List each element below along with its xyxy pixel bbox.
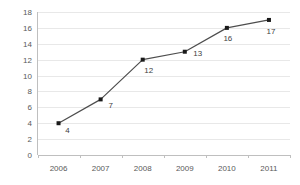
y-axis-tick-label: 6 — [28, 103, 33, 112]
y-axis-tick-label: 0 — [28, 151, 33, 160]
data-point-marker — [99, 97, 103, 101]
x-axis-tick-label: 2011 — [260, 164, 278, 173]
data-point-marker — [57, 121, 61, 125]
data-point-label: 12 — [144, 66, 153, 75]
line-chart: 024681012141618 200620072008200920102011… — [0, 0, 300, 185]
chart-background — [0, 0, 300, 185]
x-axis-tick-label: 2008 — [134, 164, 152, 173]
x-axis-tick-label: 2007 — [92, 164, 110, 173]
data-point-label: 16 — [223, 34, 232, 43]
y-axis-tick-label: 14 — [23, 40, 32, 49]
data-point-label: 4 — [65, 126, 70, 135]
x-axis-tick-label: 2009 — [176, 164, 194, 173]
chart-canvas: 024681012141618 200620072008200920102011… — [0, 0, 300, 185]
y-axis-tick-label: 2 — [28, 135, 33, 144]
x-axis-tick-label: 2010 — [218, 164, 236, 173]
data-point-marker — [183, 50, 187, 54]
y-axis-tick-label: 10 — [23, 72, 32, 81]
y-axis-tick-label: 8 — [28, 87, 33, 96]
data-point-marker — [267, 18, 271, 22]
y-axis-tick-label: 16 — [23, 24, 32, 33]
data-point-label: 17 — [267, 27, 276, 36]
data-point-label: 13 — [193, 49, 202, 58]
y-axis-tick-label: 18 — [23, 8, 32, 17]
data-point-marker — [225, 26, 229, 30]
y-axis-tick-label: 4 — [28, 119, 33, 128]
x-axis-tick-label: 2006 — [50, 164, 68, 173]
y-axis-tick-label: 12 — [23, 56, 32, 65]
data-point-label: 7 — [108, 101, 113, 110]
data-point-marker — [141, 58, 145, 62]
